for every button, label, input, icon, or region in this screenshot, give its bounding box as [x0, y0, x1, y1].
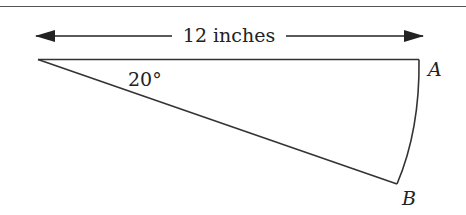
- arrowhead-left-icon: [35, 30, 55, 42]
- arrowhead-right-icon: [404, 30, 424, 42]
- point-b-label: B: [401, 187, 416, 209]
- sector-diagram: 12 inches 20° A B: [0, 0, 466, 215]
- dimension-label: 12 inches: [183, 24, 275, 46]
- point-a-label: A: [426, 58, 442, 80]
- angle-label: 20°: [128, 68, 162, 90]
- radius-to-b: [38, 60, 397, 185]
- arc-a-to-b: [397, 60, 419, 185]
